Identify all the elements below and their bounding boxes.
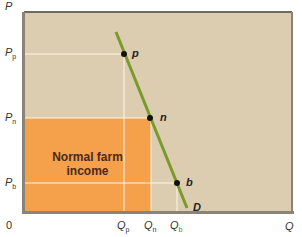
point-b <box>174 180 180 186</box>
plot-top-border <box>24 11 292 13</box>
y-axis <box>22 12 25 214</box>
point-label-n: n <box>160 111 167 123</box>
x-tick-qb: Qb <box>170 219 182 233</box>
y-tick-pp: Pp <box>5 46 16 60</box>
point-label-b: b <box>186 176 193 188</box>
income-label: Normal farm income <box>24 150 151 178</box>
point-label-p: p <box>132 47 139 59</box>
plot-right-border <box>291 12 293 213</box>
x-axis <box>22 211 294 214</box>
point-n <box>147 115 153 121</box>
x-tick-qn: Qn <box>144 219 156 233</box>
x-axis-label: Q <box>285 220 294 232</box>
x-tick-qp: Qp <box>117 219 129 233</box>
y-tick-pn: Pn <box>5 111 16 125</box>
point-p <box>121 51 127 57</box>
y-axis-label: P <box>5 0 12 12</box>
income-label-line1: Normal farm <box>24 150 151 164</box>
chart-lines <box>0 0 302 237</box>
curve-label-d: D <box>193 201 201 213</box>
origin-label: 0 <box>6 219 12 231</box>
income-label-line2: income <box>24 164 151 178</box>
y-tick-pb: Pb <box>5 176 16 190</box>
